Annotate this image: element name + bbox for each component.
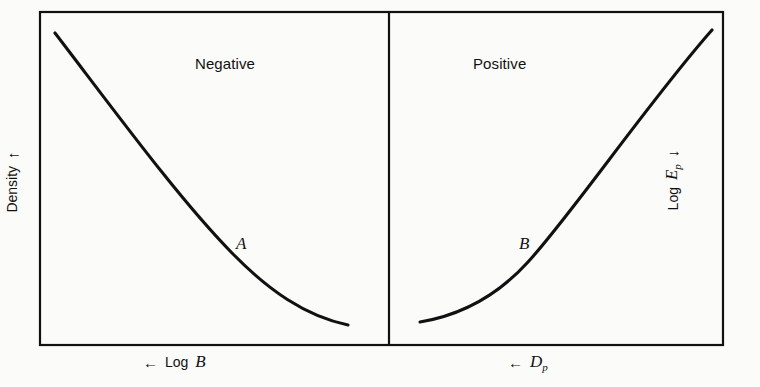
characteristic-curves-figure: Negative Positive A B ← Log B ← Dp Densi… — [0, 0, 760, 387]
figure-background — [0, 0, 760, 387]
figure-canvas — [0, 0, 760, 387]
